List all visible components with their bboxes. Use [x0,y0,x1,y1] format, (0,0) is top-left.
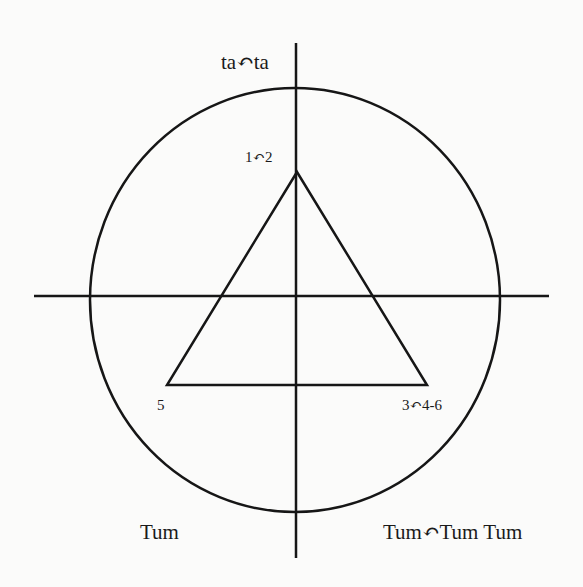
diagram-canvas [0,0,583,587]
label-right-vertex: 3↶4-6 [402,398,442,413]
label-left-vertex: 5 [157,398,165,413]
label-bottom-left: Tum [140,522,179,543]
label-apex: 1↶2 [245,150,273,165]
label-bottom-right: Tum↶Tum Tum [383,522,522,543]
label-top: ta↶ta [221,52,269,73]
